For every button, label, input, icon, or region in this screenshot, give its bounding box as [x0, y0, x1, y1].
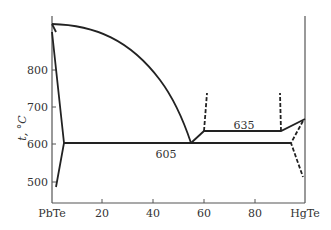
- x-tick-hgte: HgTe: [290, 207, 320, 220]
- phase-curves: [52, 24, 305, 187]
- dashed-line-91: [280, 93, 281, 131]
- y-tick-600: 600: [27, 138, 48, 151]
- x-tick-40: 40: [146, 207, 160, 220]
- phase-diagram: 800 700 600 500 t, °C PbTe 20 40 60 80 H…: [0, 0, 331, 230]
- dashed-line-60: [204, 93, 207, 131]
- x-ticks: PbTe 20 40 60 80 HgTe: [38, 199, 320, 220]
- solidus-left-curve: [52, 32, 64, 187]
- x-tick-pbte: PbTe: [38, 207, 65, 220]
- x-tick-20: 20: [95, 207, 109, 220]
- x-tick-80: 80: [248, 207, 262, 220]
- peritectic-temp-label: 635: [234, 119, 255, 132]
- dashed-right-curve: [291, 121, 303, 177]
- y-tick-800: 800: [27, 64, 48, 77]
- y-tick-500: 500: [27, 176, 48, 189]
- y-axis-label: t, °C: [16, 115, 29, 141]
- eutectic-temp-label: 605: [156, 148, 177, 161]
- liquidus-curve: [52, 24, 191, 143]
- dashed-curves: [204, 93, 303, 177]
- y-tick-700: 700: [27, 101, 48, 114]
- x-tick-60: 60: [197, 207, 211, 220]
